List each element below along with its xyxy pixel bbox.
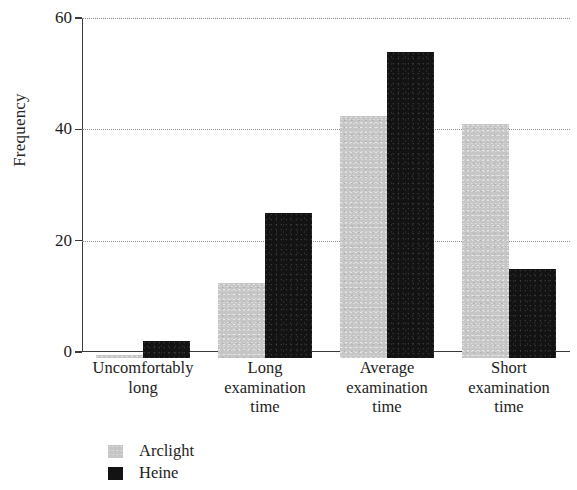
y-tick-mark	[75, 351, 82, 352]
x-tick-label-line: Uncomfortably	[74, 358, 212, 378]
x-tick-label: Averageexaminationtime	[318, 358, 456, 417]
legend: ArclightHeine	[108, 440, 194, 484]
x-tick-label-line: Short	[440, 358, 577, 378]
y-axis-line	[82, 18, 83, 352]
y-tick-label: 20	[55, 231, 72, 251]
x-tick-label-line: long	[74, 378, 212, 398]
bar-heine-3	[509, 269, 556, 358]
legend-swatch-heine	[108, 467, 123, 480]
bar-heine-2	[387, 52, 434, 358]
x-tick-label: Uncomfortablylong	[74, 358, 212, 397]
gridline	[82, 18, 570, 19]
x-tick-label-line: examination	[196, 378, 334, 398]
bar-chart: Frequency 0204060 UncomfortablylongLonge…	[0, 0, 577, 490]
x-tick-label-line: time	[318, 397, 456, 417]
x-tick-label-line: Average	[318, 358, 456, 378]
legend-item: Heine	[108, 462, 194, 484]
y-tick-mark	[75, 129, 82, 130]
x-tick-label-line: examination	[318, 378, 456, 398]
bar-arclight-3	[462, 124, 509, 358]
bar-arclight-2	[340, 116, 387, 358]
x-tick-label: Shortexaminationtime	[440, 358, 577, 417]
x-tick-label-line: Long	[196, 358, 334, 378]
x-tick-label-line: time	[440, 397, 577, 417]
x-tick-label-line: time	[196, 397, 334, 417]
x-tick-label-line: examination	[440, 378, 577, 398]
x-tick-label: Longexaminationtime	[196, 358, 334, 417]
bar-arclight-1	[218, 283, 265, 358]
y-tick-mark	[75, 17, 82, 18]
legend-swatch-arclight	[108, 445, 123, 458]
legend-label: Heine	[139, 463, 178, 483]
y-tick-label: 40	[55, 119, 72, 139]
y-tick-label: 60	[55, 8, 72, 28]
y-axis-title: Frequency	[10, 50, 30, 210]
y-tick-label: 0	[64, 342, 73, 362]
y-tick-mark	[75, 240, 82, 241]
bar-heine-0	[143, 341, 190, 358]
legend-label: Arclight	[139, 441, 194, 461]
legend-item: Arclight	[108, 440, 194, 462]
bar-heine-1	[265, 213, 312, 358]
plot-area: 0204060 UncomfortablylongLongexamination…	[82, 18, 570, 358]
